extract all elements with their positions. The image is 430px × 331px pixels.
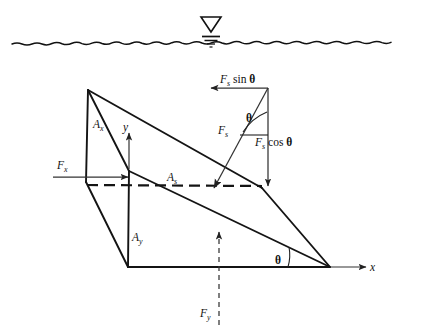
label-force-s-cos-theta: Fs cos θ: [254, 136, 292, 151]
wedge-edge-top-rear: [88, 90, 262, 188]
label-force-s: Fs: [217, 124, 228, 139]
label-theta-wedge: θ: [275, 254, 281, 266]
wedge-edge-rear-slope: [262, 188, 330, 267]
wedge-angle-arc: [288, 247, 290, 267]
water-surface-group: [12, 17, 391, 47]
wedge-edge-left-vertical: [86, 90, 88, 182]
coordinate-axes: [129, 133, 366, 267]
label-theta-force: θ: [246, 112, 252, 124]
label-area-y: Ay: [131, 231, 143, 246]
label-axis-x: x: [369, 261, 376, 273]
force-arrows: [53, 88, 268, 325]
label-area-s: As: [166, 171, 177, 186]
wedge-angle-group: [288, 247, 290, 267]
wedge-free-body-diagram: Ax Ay As Fx Fy Fs Fs: [0, 0, 430, 331]
diagram-labels: Ax Ay As Fx Fy Fs Fs: [56, 73, 376, 322]
figure-root: Ax Ay As Fx Fy Fs Fs: [0, 0, 430, 331]
label-force-s-sin-theta: Fs sin θ: [219, 73, 255, 88]
water-surface-line: [12, 41, 391, 45]
label-force-y: Fy: [199, 307, 211, 322]
wedge-body: [86, 90, 330, 267]
label-axis-y: y: [122, 121, 129, 134]
wedge-edge-left-bottom-slope: [86, 182, 128, 267]
water-table-triangle: [201, 17, 221, 32]
label-force-x: Fx: [56, 159, 68, 174]
label-area-x: Ax: [92, 118, 104, 133]
